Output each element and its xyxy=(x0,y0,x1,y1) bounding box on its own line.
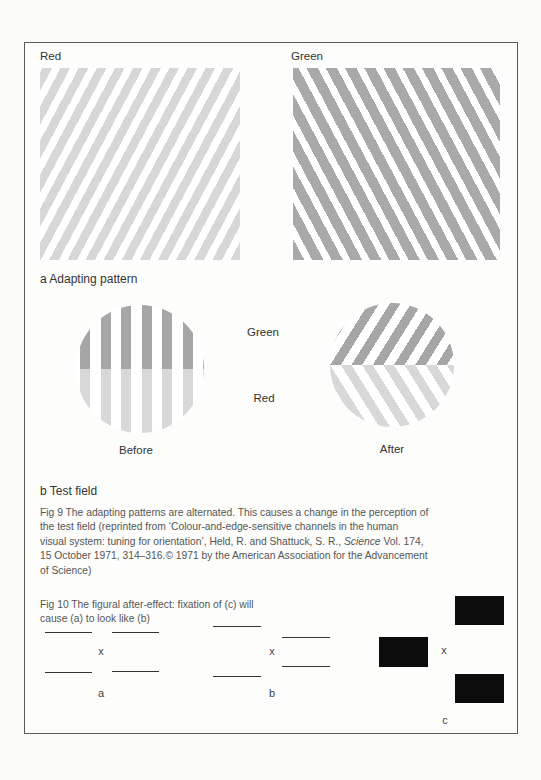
before-green-half xyxy=(76,305,204,369)
caption-line: Fig 10 The figural after-effect: fixatio… xyxy=(40,598,280,612)
after-green-half xyxy=(330,303,454,365)
line-a-top-right xyxy=(112,632,159,633)
label-c: c xyxy=(442,714,448,726)
caption-line: Fig 9 The adapting patterns are alternat… xyxy=(40,506,460,520)
black-rect-left xyxy=(379,637,428,667)
test-red-label: Red xyxy=(253,392,274,404)
before-label: Before xyxy=(119,444,153,456)
label-a: a xyxy=(98,687,104,699)
fixation-mark-b: x xyxy=(269,645,275,657)
before-test-field xyxy=(76,305,204,433)
after-label: After xyxy=(380,443,404,455)
line-b-top-left xyxy=(213,626,261,627)
panel-b-caption: b Test field xyxy=(40,484,97,498)
label-b: b xyxy=(269,687,275,699)
black-rect-top-right xyxy=(455,596,504,625)
black-rect-bottom-right xyxy=(455,674,504,703)
red-adapting-grating xyxy=(40,68,240,260)
green-label: Green xyxy=(291,50,323,62)
line-a-top-left xyxy=(45,632,92,633)
fixation-mark-a: x xyxy=(98,645,104,657)
panel-a-caption: a Adapting pattern xyxy=(40,272,137,286)
test-green-label: Green xyxy=(247,326,279,338)
line-b-bottom-left xyxy=(213,676,261,677)
journal-name: Science xyxy=(344,536,381,547)
green-adapting-grating xyxy=(293,68,500,260)
before-red-half xyxy=(76,369,204,433)
line-b-bottom-right xyxy=(282,666,330,667)
line-a-bottom-left xyxy=(45,672,92,673)
caption-line: the test field (reprinted from ‘Colour-a… xyxy=(40,520,460,534)
red-label: Red xyxy=(40,50,61,62)
after-red-half xyxy=(330,365,454,427)
caption-line: visual system: tuning for orientation’, … xyxy=(40,535,460,549)
figure9-caption: Fig 9 The adapting patterns are alternat… xyxy=(40,506,460,578)
caption-line: 15 October 1971, 314–316.© 1971 by the A… xyxy=(40,549,460,563)
caption-line: of Science) xyxy=(40,564,460,578)
figure10-caption: Fig 10 The figural after-effect: fixatio… xyxy=(40,598,280,627)
line-b-top-right xyxy=(282,637,330,638)
caption-line: cause (a) to look like (b) xyxy=(40,612,280,626)
fixation-mark-c: x xyxy=(441,644,447,656)
line-a-bottom-right xyxy=(112,671,159,672)
after-test-field xyxy=(330,303,454,427)
